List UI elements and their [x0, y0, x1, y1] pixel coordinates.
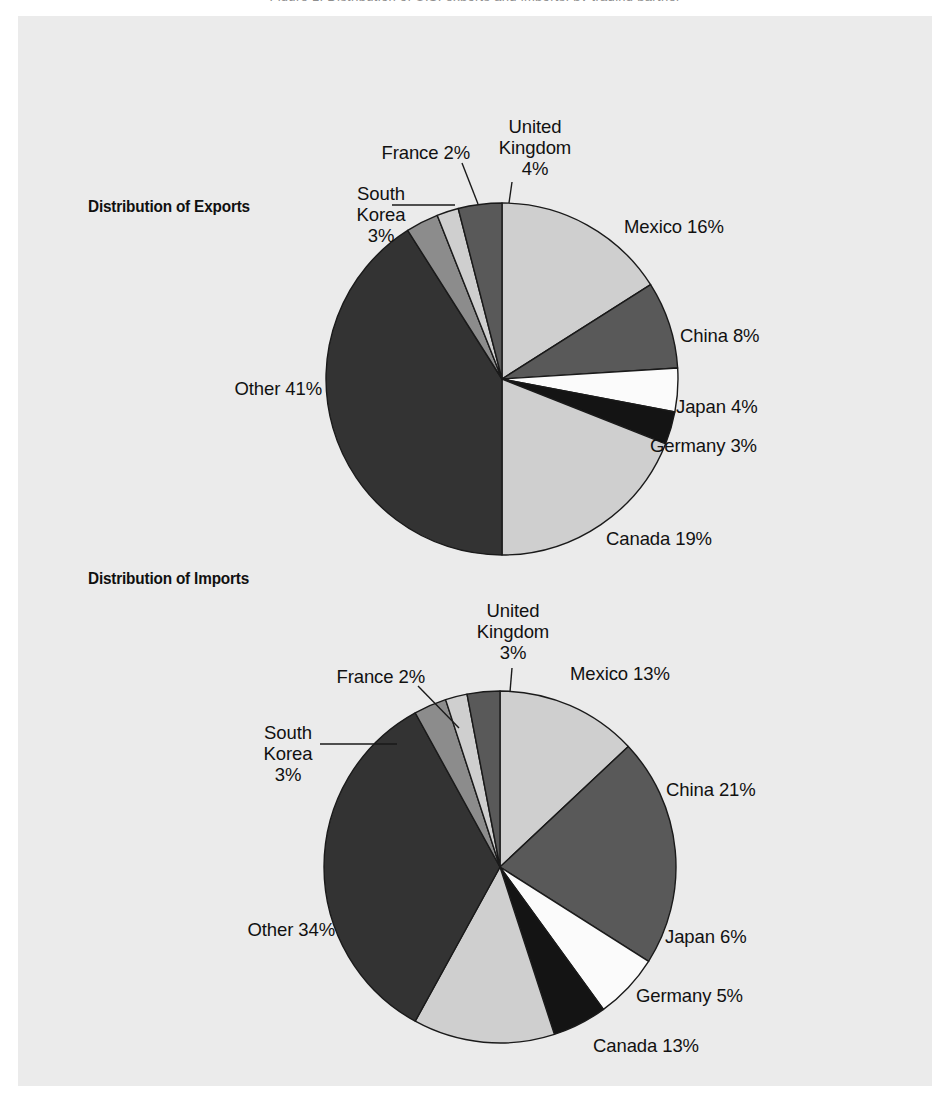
pie-label-imports-canada: Canada 13%: [593, 1035, 699, 1056]
pie-label-imports-united-kingdom: UnitedKingdom3%: [423, 600, 603, 663]
pie-label-imports-mexico: Mexico 13%: [570, 663, 670, 684]
chart-imports: Distribution of ImportsMexico 13%China 2…: [0, 0, 950, 1101]
pie-label-imports-japan: Japan 6%: [665, 926, 746, 947]
pie-label-imports-other: Other 34%: [0, 919, 335, 940]
pie-label-imports-south-korea: SouthKorea3%: [198, 722, 378, 785]
pie-label-imports-china: China 21%: [666, 779, 756, 800]
figure-page: Figure 1. Distribution of U.S. exports a…: [0, 0, 950, 1101]
leader-line-imports-united-kingdom: [510, 668, 512, 692]
pie-label-imports-germany: Germany 5%: [636, 985, 743, 1006]
pie-label-imports-france: France 2%: [0, 666, 425, 687]
